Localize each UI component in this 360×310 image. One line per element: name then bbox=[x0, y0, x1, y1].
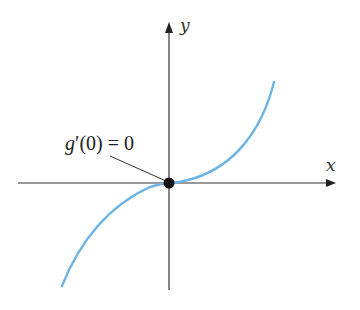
annotation-rest: (0) = 0 bbox=[79, 132, 134, 154]
derivative-annotation: g′(0) = 0 bbox=[65, 133, 134, 153]
annotation-leader-line bbox=[110, 156, 166, 181]
x-axis-arrow-icon bbox=[326, 179, 336, 187]
function-name: g bbox=[65, 132, 75, 154]
plot-canvas bbox=[0, 0, 360, 310]
y-axis-arrow-icon bbox=[165, 22, 173, 33]
y-axis-label: y bbox=[180, 17, 190, 34]
x-axis-label: x bbox=[326, 157, 336, 174]
derivative-figure: y x g′(0) = 0 bbox=[0, 0, 360, 310]
origin-point bbox=[164, 178, 175, 189]
